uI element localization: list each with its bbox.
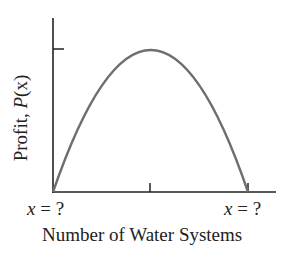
x-tick-label-left: x = ? bbox=[27, 198, 64, 220]
y-axis-label: Profit, P(x) bbox=[10, 43, 34, 193]
x-axis-label: Number of Water Systems bbox=[42, 224, 242, 246]
x-tick-label-right: x = ? bbox=[224, 198, 261, 220]
chart: Profit, P(x) x = ? x = ? Number of Water… bbox=[0, 0, 290, 254]
profit-curve bbox=[53, 50, 248, 192]
